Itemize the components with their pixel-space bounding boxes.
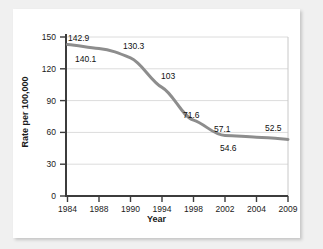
point-label-1994: 103: [161, 71, 175, 81]
y-tick-label-150: 150: [28, 32, 56, 42]
point-label-1984: 142.9: [68, 33, 89, 43]
y-tick-label-30: 30: [28, 159, 56, 169]
point-label-2002: 57.1: [214, 124, 231, 134]
y-tick-label-0: 0: [28, 191, 56, 201]
point-label-1988: 140.1: [75, 54, 96, 64]
y-tick-label-120: 120: [28, 64, 56, 74]
point-label-1990: 130.3: [123, 41, 144, 51]
point-label-2009: 52.5: [265, 123, 282, 133]
y-tick-label-60: 60: [28, 127, 56, 137]
line-chart: 150 120 90 60 30 0 1984 1988 1990 1994 1…: [13, 9, 300, 238]
y-tick-label-90: 90: [28, 96, 56, 106]
plot-area: [66, 37, 288, 196]
point-label-1998: 71.6: [183, 110, 200, 120]
chart-card: 150 120 90 60 30 0 1984 1988 1990 1994 1…: [13, 9, 300, 238]
point-label-2004: 54.6: [220, 143, 237, 153]
y-axis-title: Rate per 100,000: [20, 62, 30, 162]
x-axis-title: Year: [13, 214, 300, 224]
x-tick-label-2009: 2009: [268, 204, 308, 214]
